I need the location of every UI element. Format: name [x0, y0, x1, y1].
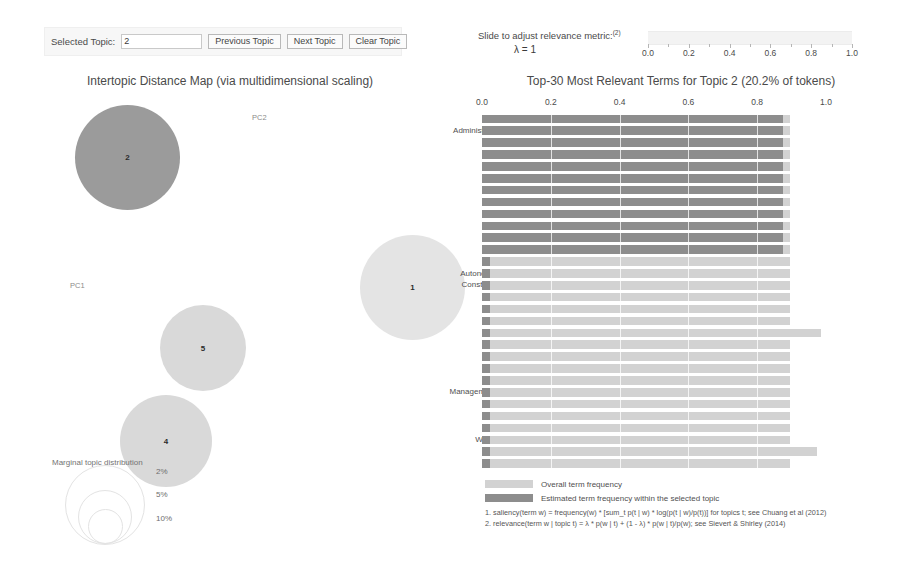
- bar-estimated-frequency: [482, 210, 783, 219]
- bar-estimated-frequency: [482, 447, 490, 456]
- bar-estimated-frequency: [482, 412, 490, 421]
- bar-row[interactable]: Hearing: [460, 149, 902, 161]
- pc2-axis-label: PC2: [252, 113, 267, 122]
- topic-circle-label: 1: [410, 283, 414, 292]
- bar-estimated-frequency: [482, 317, 490, 326]
- bar-row[interactable]: County: [460, 291, 902, 303]
- bar-row[interactable]: Riverway: [460, 232, 902, 244]
- topic-circle-label: 5: [201, 344, 205, 353]
- bar-estimated-frequency: [482, 174, 783, 183]
- bar-row[interactable]: location: [460, 375, 902, 387]
- bar-estimated-frequency: [482, 329, 490, 338]
- bar-x-tick-label-0.2: 0.2: [545, 97, 557, 107]
- selected-topic-label: Selected Topic:: [51, 36, 115, 47]
- bar-row[interactable]: Enacted: [460, 339, 902, 351]
- bar-overall-frequency: [482, 210, 790, 219]
- relevance-slider-label: Slide to adjust relevance metric:(2): [478, 29, 621, 41]
- bar-row[interactable]: Managementinstitutions: [460, 386, 902, 398]
- bar-overall-frequency: [482, 198, 790, 207]
- bar-row[interactable]: Organs: [460, 208, 902, 220]
- bar-x-tick-label-0.0: 0.0: [476, 97, 488, 107]
- bar-overall-frequency: [482, 376, 790, 385]
- bar-overall-frequency: [482, 436, 790, 445]
- bar-overall-frequency: [482, 269, 790, 278]
- lambda-tick-label-1.0: 1.0: [846, 48, 858, 58]
- bar-estimated-frequency: [482, 162, 783, 171]
- bar-estimated-frequency: [482, 138, 783, 147]
- topic-control-bar: Selected Topic: Previous Topic Next Topi…: [44, 27, 402, 56]
- bar-estimated-frequency: [482, 269, 490, 278]
- bar-row[interactable]: Administration-License: [460, 125, 902, 137]
- bar-chart-x-axis: 0.00.20.40.60.81.0: [460, 95, 902, 111]
- legend-label-overall: Overall term frequency: [541, 480, 622, 489]
- marginal-size-ring-2: [88, 509, 123, 544]
- legend-swatch-estimated-icon: [485, 494, 533, 502]
- bar-row[interactable]: Fine: [460, 137, 902, 149]
- bar-estimated-frequency: [482, 293, 490, 302]
- bar-overall-frequency: [482, 293, 790, 302]
- bar-estimated-frequency: [482, 281, 490, 290]
- bar-chart-gridline: [757, 113, 758, 470]
- bar-overall-frequency: [482, 400, 790, 409]
- bar-row[interactable]: Administration: [460, 446, 902, 458]
- top-terms-title: Top-30 Most Relevant Terms for Topic 2 (…: [460, 74, 902, 88]
- bar-estimated-frequency: [482, 115, 783, 124]
- topic-circle-5[interactable]: 5: [160, 305, 246, 391]
- bar-row[interactable]: Autonomous-regions: [460, 268, 902, 280]
- topic-circle-2[interactable]: 2: [75, 105, 180, 210]
- bar-estimated-frequency: [482, 364, 490, 373]
- bar-row[interactable]: Water-resources: [460, 434, 902, 446]
- bar-row[interactable]: Flood-control: [460, 351, 902, 363]
- bar-overall-frequency: [482, 126, 790, 135]
- legend-row-estimated: Estimated term frequency within the sele…: [485, 492, 885, 504]
- intertopic-distance-map[interactable]: PC2 PC1 2541 2% 5% 10%: [20, 95, 460, 535]
- marginal-size-label-2: 2%: [156, 467, 168, 476]
- bar-row[interactable]: Construction: [460, 244, 902, 256]
- bar-estimated-frequency: [482, 388, 490, 397]
- top-terms-bar-chart: 0.00.20.40.60.81.0 LawfullyAdministratio…: [460, 95, 902, 495]
- bar-row[interactable]: Quality: [460, 398, 902, 410]
- bar-row[interactable]: Hydrological: [460, 161, 902, 173]
- bar-row[interactable]: Implement: [460, 172, 902, 184]
- bar-overall-frequency: [482, 257, 790, 266]
- bar-row[interactable]: Organization: [460, 196, 902, 208]
- bar-overall-frequency: [482, 186, 790, 195]
- bar-estimated-frequency: [482, 352, 490, 361]
- bar-overall-frequency: [482, 281, 790, 290]
- bar-estimated-frequency: [482, 126, 783, 135]
- marginal-size-label-5: 5%: [156, 490, 168, 499]
- lambda-tick-label-0.4: 0.4: [724, 48, 736, 58]
- bar-overall-frequency: [482, 329, 821, 338]
- bar-row[interactable]: Reservoir: [460, 422, 902, 434]
- bar-row[interactable]: Requirements: [460, 410, 902, 422]
- bar-row[interactable]: Department: [460, 184, 902, 196]
- bar-row[interactable]: Lawfully: [460, 113, 902, 125]
- bar-chart-legend: Overall term frequency Estimated term fr…: [485, 478, 885, 506]
- lambda-value-display: λ = 1: [514, 44, 536, 55]
- bar-row[interactable]: Application: [460, 458, 902, 470]
- lambda-tick-label-0.2: 0.2: [683, 48, 695, 58]
- bar-row[interactable]: Fetchwater: [460, 327, 902, 339]
- topic-circle-label: 2: [125, 153, 129, 162]
- bar-overall-frequency: [482, 459, 790, 468]
- topic-circle-1[interactable]: 1: [360, 235, 465, 340]
- bar-overall-frequency: [482, 447, 817, 456]
- bar-overall-frequency: [482, 305, 790, 314]
- selected-topic-input[interactable]: [121, 34, 202, 49]
- bar-estimated-frequency: [482, 186, 783, 195]
- clear-topic-button[interactable]: Clear Topic: [349, 34, 408, 49]
- bar-estimated-frequency: [482, 459, 490, 468]
- bar-row[interactable]: Data: [460, 303, 902, 315]
- lambda-slider-track[interactable]: [648, 31, 852, 45]
- previous-topic-button[interactable]: Previous Topic: [208, 34, 280, 49]
- bar-row[interactable]: Flood-defense: [460, 363, 902, 375]
- bar-overall-frequency: [482, 352, 790, 361]
- bar-row[interactable]: Construction-Project: [460, 279, 902, 291]
- bar-row[interactable]: Authorities: [460, 256, 902, 268]
- next-topic-button[interactable]: Next Topic: [287, 34, 343, 49]
- relevance-footnote-marker: (2): [613, 29, 621, 36]
- bar-row[interactable]: Provisions: [460, 220, 902, 232]
- lambda-tick-minor: [750, 44, 751, 47]
- bar-row[interactable]: decision: [460, 315, 902, 327]
- bar-estimated-frequency: [482, 400, 490, 409]
